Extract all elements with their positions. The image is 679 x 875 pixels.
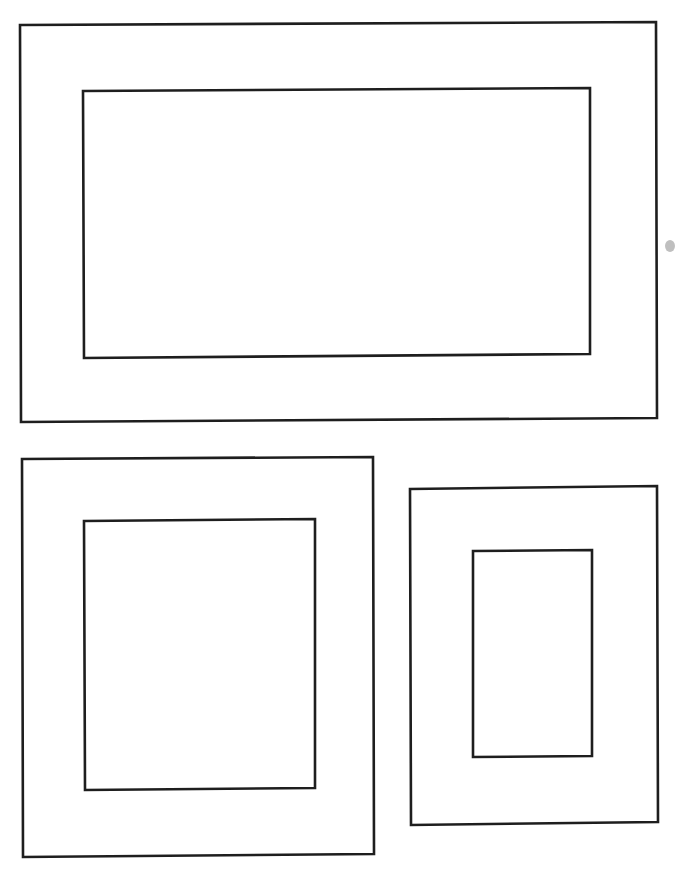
frame-landscape-outer-border — [20, 22, 657, 422]
scan-smudge — [665, 240, 675, 252]
frame-portrait — [410, 486, 658, 825]
frames-diagram — [0, 0, 679, 875]
frame-square-inner-opening — [84, 519, 315, 790]
frame-square — [22, 457, 374, 857]
frame-landscape — [20, 22, 657, 422]
frame-square-outer-border — [22, 457, 374, 857]
frame-portrait-outer-border — [410, 486, 658, 825]
scan-smudge-mark — [665, 240, 675, 252]
frame-portrait-inner-opening — [473, 550, 592, 757]
frame-landscape-inner-opening — [83, 88, 590, 358]
